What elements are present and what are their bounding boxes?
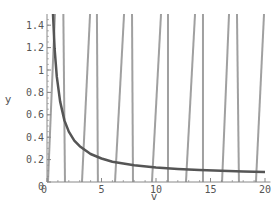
branch-line <box>237 14 239 182</box>
y-tick-label: 0 <box>38 181 44 192</box>
y-tick-label: 1.4 <box>26 20 44 31</box>
x-tick-label: 15 <box>204 184 216 195</box>
plot-area: 0510152000.20.40.60.811.21.4 v y <box>0 0 279 208</box>
branch-line <box>82 14 90 182</box>
branch-line <box>186 14 195 182</box>
y-tick-label: 0.6 <box>26 109 44 120</box>
x-axis-label: v <box>151 190 158 203</box>
y-tick-label: 1 <box>38 65 44 76</box>
branch-line <box>152 14 161 182</box>
branch-line <box>115 14 124 182</box>
y-tick-label: 0.2 <box>26 154 44 165</box>
branch-line <box>222 14 229 182</box>
y-axis-label: y <box>5 93 12 106</box>
y-tick-label: 0.4 <box>26 132 44 143</box>
chart: 0510152000.20.40.60.811.21.4 v y <box>0 0 279 208</box>
x-tick-label: 20 <box>259 184 271 195</box>
branch-line <box>63 14 65 182</box>
x-tick-label: 5 <box>98 184 104 195</box>
branch-line <box>256 14 264 182</box>
series-layer <box>48 14 265 182</box>
y-tick-label: 0.8 <box>26 87 44 98</box>
y-tick-label: 1.2 <box>26 42 44 53</box>
branch-line <box>132 14 133 182</box>
